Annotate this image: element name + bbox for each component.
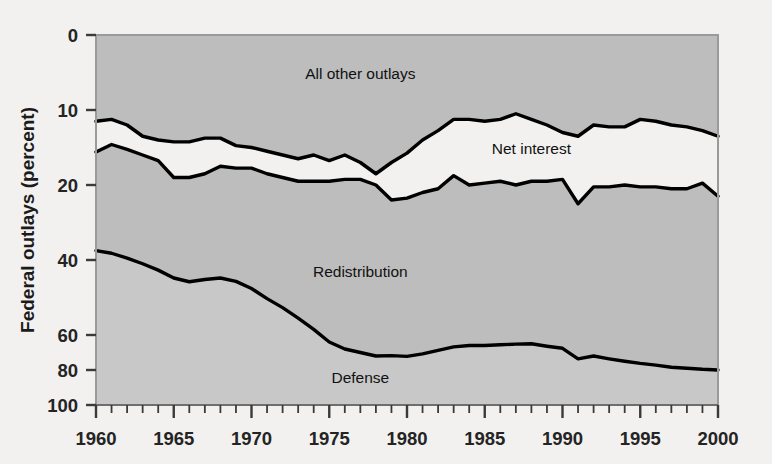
x-tick-label-1990: 1990 (542, 428, 583, 449)
plot-area (96, 35, 718, 405)
defense-label: Defense (331, 369, 389, 386)
x-tick-label-1965: 1965 (153, 428, 194, 449)
y-tick-label-80: 10 (57, 100, 78, 121)
x-tick-label-2000: 2000 (697, 428, 738, 449)
x-tick-label-1985: 1985 (464, 428, 505, 449)
x-tick-label-1995: 1995 (620, 428, 661, 449)
x-tick-label-1980: 1980 (386, 428, 427, 449)
x-tick-label-1975: 1975 (309, 428, 350, 449)
chart-container: 1008060402010019601965197019751980198519… (0, 0, 772, 464)
redistribution-label: Redistribution (313, 263, 408, 280)
x-tick-label-1970: 1970 (231, 428, 272, 449)
federal-outlays-area-chart: 1008060402010019601965197019751980198519… (0, 0, 772, 464)
y-tick-label-40: 40 (57, 250, 78, 271)
y-tick-label-10: 80 (57, 360, 78, 381)
y-tick-label-60: 20 (57, 175, 78, 196)
all-other-outlays-label: All other outlays (305, 65, 416, 82)
y-tick-label-100: 0 (68, 25, 78, 46)
y-tick-label-0: 100 (47, 395, 78, 416)
y-tick-label-20: 60 (57, 325, 78, 346)
y-axis-title: Federal outlays (percent) (17, 107, 38, 333)
x-tick-label-1960: 1960 (75, 428, 116, 449)
net-interest-label: Net interest (492, 140, 572, 157)
